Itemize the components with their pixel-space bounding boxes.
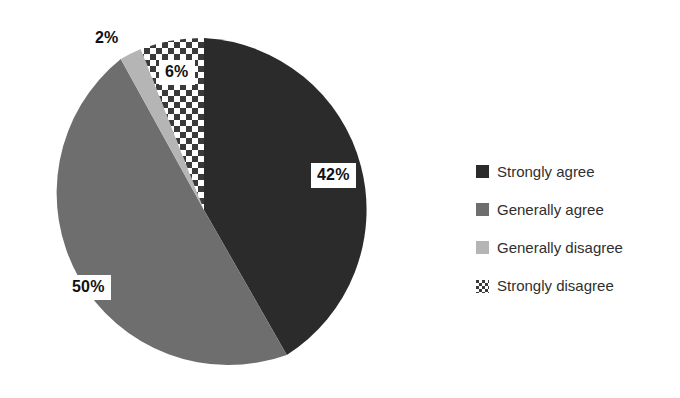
legend-swatch-icon xyxy=(476,165,489,178)
legend-item-label: Generally disagree xyxy=(497,240,623,255)
legend-item-generally-agree[interactable]: Generally agree xyxy=(476,190,676,228)
legend-item-strongly-agree[interactable]: Strongly agree xyxy=(476,152,676,190)
pie-svg xyxy=(0,0,410,398)
legend-item-label: Strongly disagree xyxy=(497,278,614,293)
legend-item-generally-disagree[interactable]: Generally disagree xyxy=(476,228,676,266)
legend-item-strongly-disagree[interactable]: Strongly disagree xyxy=(476,266,676,304)
pie-data-label-strongly-agree: 42% xyxy=(311,163,356,188)
pie-chart: 42% 50% 2% 6% Strongly agree Generally a… xyxy=(0,0,680,398)
chart-legend: Strongly agree Generally agree Generally… xyxy=(476,152,676,304)
legend-item-label: Strongly agree xyxy=(497,164,595,179)
pie-plot-area: 42% 50% 2% 6% xyxy=(0,0,410,398)
legend-item-label: Generally agree xyxy=(497,202,604,217)
pie-data-label-strongly-disagree: 6% xyxy=(159,60,195,85)
checker-pattern-icon xyxy=(476,280,489,293)
legend-swatch-icon xyxy=(476,241,489,254)
pie-data-label-generally-agree: 50% xyxy=(66,275,111,300)
pie-data-label-generally-disagree: 2% xyxy=(95,30,119,46)
legend-swatch-pattern-icon xyxy=(476,279,489,292)
legend-swatch-icon xyxy=(476,203,489,216)
